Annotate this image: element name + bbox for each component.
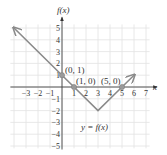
svg-text:2: 2 (56, 59, 60, 68)
svg-text:−5: −5 (51, 142, 60, 151)
svg-text:−3: −3 (22, 89, 31, 98)
svg-text:6: 6 (132, 89, 136, 98)
svg-text:5: 5 (56, 24, 60, 33)
function-graph: −3−2−11234567−5−4−3−2−112345 f(x) x (0, … (0, 0, 167, 155)
svg-text:4: 4 (56, 36, 60, 45)
grid-lines (10, 24, 149, 148)
svg-text:5: 5 (120, 89, 124, 98)
point-label-0-1: (0, 1) (65, 65, 85, 75)
svg-text:3: 3 (96, 89, 100, 98)
function-label: y = f(x) (80, 122, 108, 132)
y-axis-label: f(x) (57, 5, 70, 15)
svg-text:7: 7 (144, 89, 148, 98)
svg-text:3: 3 (56, 48, 60, 57)
x-axis-label: x (152, 82, 157, 92)
svg-text:−4: −4 (51, 130, 60, 139)
svg-text:1: 1 (72, 89, 76, 98)
svg-text:−1: −1 (51, 95, 60, 104)
point-label-5-0: (5, 0) (101, 76, 121, 86)
svg-text:−2: −2 (34, 89, 43, 98)
point-label-1-0: (1, 0) (76, 76, 96, 86)
svg-text:−2: −2 (51, 107, 60, 116)
svg-text:−3: −3 (51, 118, 60, 127)
